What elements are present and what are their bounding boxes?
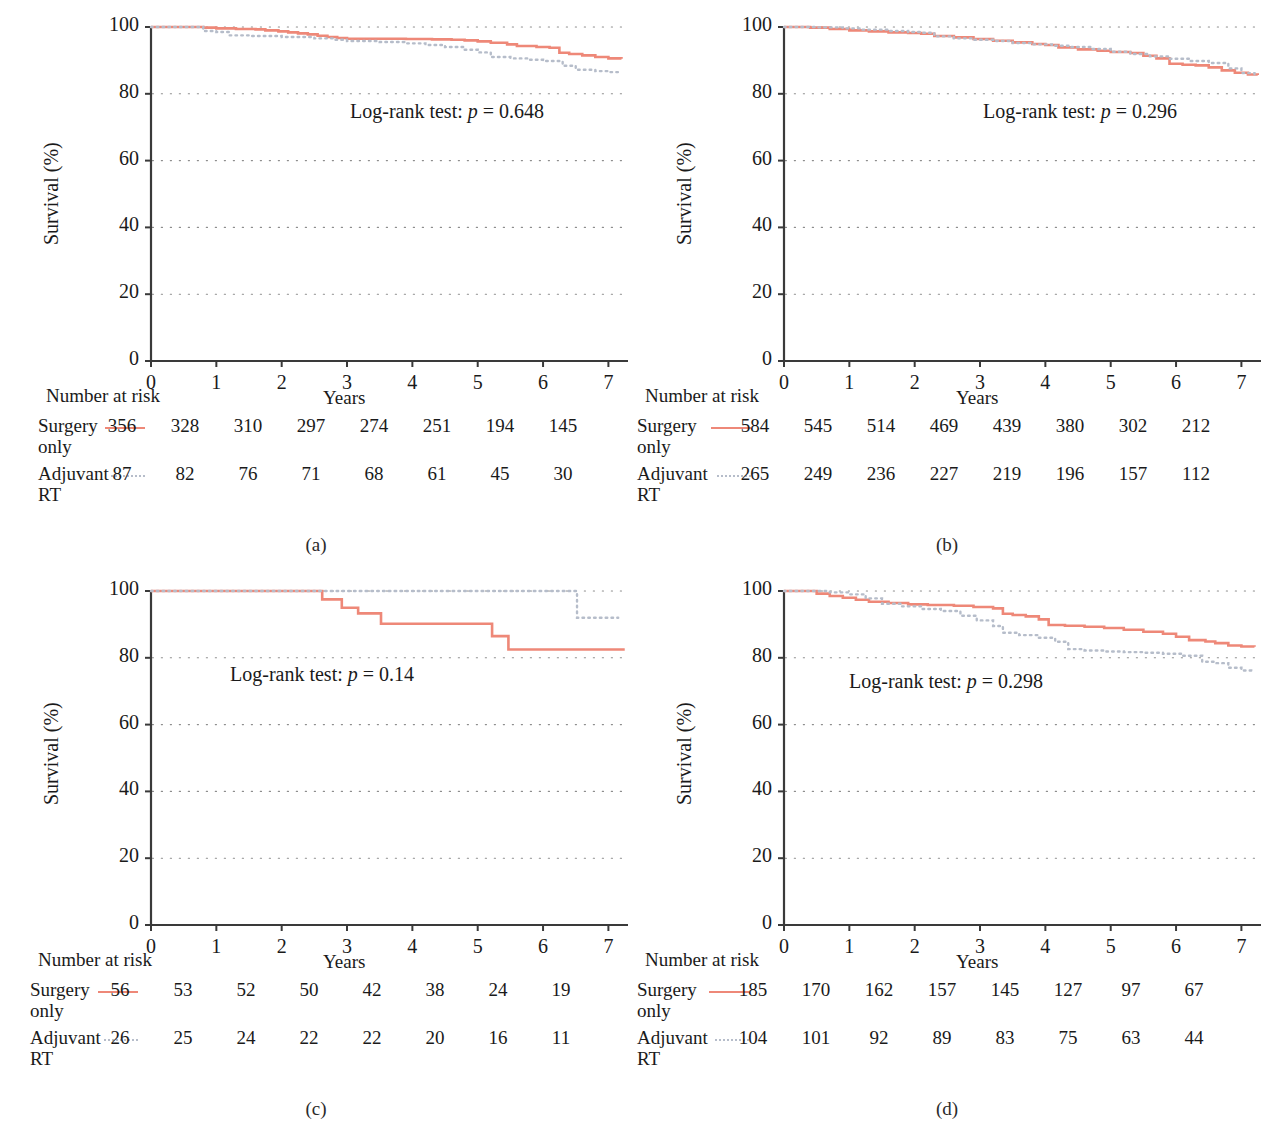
series-adjuvant-rt <box>151 27 621 72</box>
panel-c-label: (c) <box>0 1098 632 1120</box>
x-axis-title: Years <box>323 387 365 409</box>
risk-value-surgery: 514 <box>857 415 905 437</box>
risk-value-adjuvant: 63 <box>1107 1027 1155 1049</box>
risk-value-adjuvant: 24 <box>222 1027 270 1049</box>
panel-d-p-value: 0.298 <box>998 670 1043 692</box>
risk-value-adjuvant: 25 <box>159 1027 207 1049</box>
panel-c-p-symbol: p <box>348 663 358 685</box>
y-tick-label: 60 <box>714 711 772 734</box>
x-axis-title: Years <box>956 951 998 973</box>
risk-value-surgery: 24 <box>474 979 522 1001</box>
risk-value-adjuvant: 68 <box>350 463 398 485</box>
x-axis-title: Years <box>323 951 365 973</box>
panel-b-plot: 02040608010001234567 <box>631 0 1263 400</box>
panel-d-y-axis-title: Survival (%) <box>673 702 696 805</box>
series-surgery-only <box>784 27 1258 75</box>
risk-value-adjuvant: 112 <box>1172 463 1220 485</box>
risk-value-adjuvant: 44 <box>1170 1027 1218 1049</box>
y-tick-label: 40 <box>81 213 139 236</box>
y-tick-label: 20 <box>714 844 772 867</box>
y-tick-label: 20 <box>714 280 772 303</box>
risk-value-adjuvant: 16 <box>474 1027 522 1049</box>
panel-c: 02040608010001234567 Survival (%) Log-ra… <box>0 560 632 1129</box>
panel-b-p-value: 0.296 <box>1132 100 1177 122</box>
risk-value-adjuvant: 22 <box>285 1027 333 1049</box>
panel-d-p-symbol: p <box>967 670 977 692</box>
risk-value-adjuvant: 249 <box>794 463 842 485</box>
risk-value-surgery: 185 <box>729 979 777 1001</box>
y-tick-label: 60 <box>81 711 139 734</box>
group-label-adjuvant-rt: RT <box>637 1048 660 1069</box>
panel-a-p-symbol: p <box>468 100 478 122</box>
risk-value-surgery: 274 <box>350 415 398 437</box>
series-adjuvant-rt <box>151 591 618 618</box>
panel-c-risk-table: Number at riskYearsSurgeryonlyAdjuvantRT… <box>0 949 632 1079</box>
series-surgery-only <box>784 591 1254 647</box>
y-tick-label: 0 <box>714 911 772 934</box>
risk-value-adjuvant: 265 <box>731 463 779 485</box>
risk-value-adjuvant: 87 <box>98 463 146 485</box>
panel-d-label: (d) <box>631 1098 1263 1120</box>
risk-value-surgery: 53 <box>159 979 207 1001</box>
risk-value-adjuvant: 83 <box>981 1027 1029 1049</box>
y-tick-label: 100 <box>714 577 772 600</box>
y-tick-label: 80 <box>81 644 139 667</box>
risk-table-title: Number at risk <box>38 949 152 971</box>
risk-value-surgery: 297 <box>287 415 335 437</box>
risk-value-adjuvant: 219 <box>983 463 1031 485</box>
risk-value-adjuvant: 26 <box>96 1027 144 1049</box>
panel-c-logrank-prefix: Log-rank test: <box>230 663 348 685</box>
panel-c-equals: = <box>358 663 379 685</box>
risk-value-adjuvant: 104 <box>729 1027 777 1049</box>
risk-value-surgery: 19 <box>537 979 585 1001</box>
panel-c-chart-svg <box>0 560 640 960</box>
risk-value-surgery: 302 <box>1109 415 1157 437</box>
risk-value-surgery: 584 <box>731 415 779 437</box>
risk-value-surgery: 469 <box>920 415 968 437</box>
panel-d-plot: 02040608010001234567 <box>631 560 1263 960</box>
risk-value-surgery: 545 <box>794 415 842 437</box>
panel-b-p-symbol: p <box>1101 100 1111 122</box>
group-label-surgery-only: only <box>637 436 671 457</box>
risk-value-surgery: 52 <box>222 979 270 1001</box>
risk-value-adjuvant: 22 <box>348 1027 396 1049</box>
risk-value-adjuvant: 76 <box>224 463 272 485</box>
group-label-adjuvant-rt: RT <box>30 1048 53 1069</box>
risk-value-surgery: 212 <box>1172 415 1220 437</box>
risk-value-adjuvant: 45 <box>476 463 524 485</box>
risk-value-surgery: 50 <box>285 979 333 1001</box>
risk-value-adjuvant: 75 <box>1044 1027 1092 1049</box>
panel-b-risk-table: Number at riskYearsSurgeryonlyAdjuvantRT… <box>631 385 1263 515</box>
group-label-surgery: Surgery <box>637 415 697 436</box>
x-axis-title: Years <box>956 387 998 409</box>
risk-value-adjuvant: 92 <box>855 1027 903 1049</box>
panel-d-risk-table: Number at riskYearsSurgeryonlyAdjuvantRT… <box>631 949 1263 1079</box>
panel-d-logrank-annotation: Log-rank test: p = 0.298 <box>849 670 1043 693</box>
y-tick-label: 100 <box>81 13 139 36</box>
risk-value-adjuvant: 227 <box>920 463 968 485</box>
risk-value-adjuvant: 11 <box>537 1027 585 1049</box>
panel-d-equals: = <box>977 670 998 692</box>
risk-value-surgery: 67 <box>1170 979 1218 1001</box>
panel-a-p-value: 0.648 <box>499 100 544 122</box>
risk-value-adjuvant: 196 <box>1046 463 1094 485</box>
group-label-adjuvant-rt: RT <box>38 484 61 505</box>
panel-a-y-axis-title: Survival (%) <box>40 142 63 245</box>
risk-value-surgery: 251 <box>413 415 461 437</box>
risk-value-adjuvant: 30 <box>539 463 587 485</box>
panel-a: 02040608010001234567 Survival (%) Log-ra… <box>0 0 632 565</box>
panel-a-risk-table: Number at riskYearsSurgeryonlyAdjuvantRT… <box>0 385 632 515</box>
risk-value-adjuvant: 61 <box>413 463 461 485</box>
risk-table-title: Number at risk <box>645 385 759 407</box>
group-label-adjuvant: Adjuvant <box>30 1027 101 1048</box>
panel-d: 02040608010001234567 Survival (%) Log-ra… <box>631 560 1263 1129</box>
risk-value-surgery: 439 <box>983 415 1031 437</box>
panel-b-y-axis-title: Survival (%) <box>673 142 696 245</box>
risk-value-adjuvant: 71 <box>287 463 335 485</box>
risk-value-surgery: 310 <box>224 415 272 437</box>
risk-table-title: Number at risk <box>645 949 759 971</box>
risk-value-adjuvant: 101 <box>792 1027 840 1049</box>
panel-b-logrank-annotation: Log-rank test: p = 0.296 <box>983 100 1177 123</box>
risk-value-surgery: 328 <box>161 415 209 437</box>
panel-c-logrank-annotation: Log-rank test: p = 0.14 <box>230 663 414 686</box>
